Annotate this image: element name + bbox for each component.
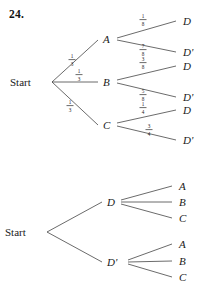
tree-two-leaf-dp-b: B xyxy=(179,255,186,267)
svg-text:3: 3 xyxy=(69,107,72,113)
svg-text:3: 3 xyxy=(78,76,81,82)
prob-c-dp: 3 4 xyxy=(146,123,153,137)
prob-b-d: 3 8 xyxy=(140,56,147,70)
prob-a-d: 1 8 xyxy=(140,13,147,27)
edge-a-d xyxy=(117,21,176,38)
edge2-d-c xyxy=(121,204,172,218)
tree-one-leaf-c-d: D xyxy=(182,104,191,116)
edge2-d-a xyxy=(121,186,172,200)
prob-start-a: 1 3 xyxy=(69,53,76,67)
svg-text:1: 1 xyxy=(78,68,81,74)
tree-one-start-label: Start xyxy=(10,76,31,88)
svg-text:1: 1 xyxy=(142,13,145,19)
tree-one-node-c: C xyxy=(103,119,111,131)
edge-c-dp xyxy=(117,126,176,140)
svg-text:1: 1 xyxy=(71,53,74,59)
svg-text:3: 3 xyxy=(71,61,74,67)
edge2-start-dp xyxy=(47,232,102,262)
tree-one-leaf-c-dp: D' xyxy=(182,134,194,146)
tree-two-node-d: D xyxy=(106,196,115,208)
svg-text:5: 5 xyxy=(142,88,145,94)
edge-c-d xyxy=(117,110,176,123)
svg-text:7: 7 xyxy=(142,43,145,49)
edge-a-dp xyxy=(117,40,176,52)
svg-text:8: 8 xyxy=(142,64,145,70)
tree-two-start-label: Start xyxy=(5,226,26,238)
svg-text:4: 4 xyxy=(148,131,151,137)
tree-two-node-dp: D' xyxy=(106,256,118,268)
tree-one-diagram: Start A B C D D' D D' D D' 1 3 1 3 1 3 1 xyxy=(0,0,216,150)
edge2-dp-b xyxy=(128,261,172,262)
tree-one-leaf-b-d: D xyxy=(182,60,191,72)
tree-one-node-b: B xyxy=(103,76,110,88)
edge2-dp-c xyxy=(128,264,172,277)
tree-two-leaf-d-c: C xyxy=(179,212,187,224)
edge-b-d xyxy=(117,66,176,80)
svg-text:3: 3 xyxy=(148,123,151,129)
tree-two-leaf-dp-c: C xyxy=(179,271,187,283)
tree-one-leaf-a-d: D xyxy=(182,15,191,27)
svg-text:1: 1 xyxy=(142,101,145,107)
svg-text:1: 1 xyxy=(69,99,72,105)
figure-root: 24. Start A B C D D' D D' D D' 1 3 xyxy=(0,0,216,284)
edge-start-c xyxy=(52,82,98,125)
edge-start-a xyxy=(52,40,98,82)
tree-one-leaf-a-dp: D' xyxy=(182,46,194,58)
tree-two-leaf-dp-a: A xyxy=(178,238,186,250)
tree-one-node-a: A xyxy=(102,33,110,45)
prob-start-b: 1 3 xyxy=(76,68,83,82)
tree-two-diagram: Start D D' A B C A B C xyxy=(0,180,216,284)
svg-text:3: 3 xyxy=(142,56,145,62)
svg-text:4: 4 xyxy=(142,109,145,115)
edge2-start-d xyxy=(47,202,102,232)
tree-two-leaf-d-a: A xyxy=(178,180,186,192)
tree-one-leaf-b-dp: D' xyxy=(182,91,194,103)
edge2-dp-a xyxy=(128,244,172,260)
svg-text:8: 8 xyxy=(142,21,145,27)
prob-c-d: 1 4 xyxy=(140,101,147,115)
tree-two-leaf-d-b: B xyxy=(179,196,186,208)
